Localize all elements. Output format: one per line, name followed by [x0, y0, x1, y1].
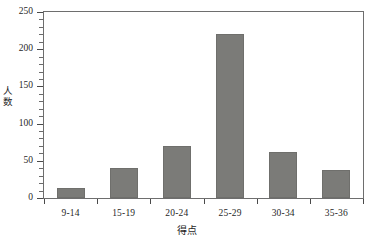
- x-axis-tick: [310, 199, 311, 204]
- bar-slot: [204, 12, 257, 198]
- y-axis-tick-label: 200: [1, 44, 33, 54]
- x-axis-title: 得点: [0, 225, 373, 236]
- y-axis-title-char-2: 数: [2, 97, 14, 108]
- x-axis-tick-label-20-24: 20-24: [147, 208, 207, 219]
- bar-slot: [257, 12, 310, 198]
- x-axis-tick: [204, 199, 205, 204]
- bar-9-14[interactable]: [57, 188, 85, 198]
- bar-slot: [150, 12, 203, 198]
- bar-slot: [310, 12, 363, 198]
- histogram-figure: 人 数 050100150200250 9-1415-1920-2425-293…: [0, 0, 373, 243]
- x-axis-tick-label-30-34: 30-34: [253, 208, 313, 219]
- bar-30-34[interactable]: [269, 152, 297, 198]
- bar-35-36[interactable]: [322, 170, 350, 198]
- x-axis-tick-label-9-14: 9-14: [41, 208, 101, 219]
- x-axis-tick-label-15-19: 15-19: [94, 208, 154, 219]
- bar-25-29[interactable]: [216, 34, 244, 198]
- y-axis-tick-label: 0: [1, 193, 33, 203]
- bar-slot: [97, 12, 150, 198]
- x-axis-tick: [44, 199, 45, 204]
- bar-slot: [44, 12, 97, 198]
- bars-layer: [44, 12, 363, 198]
- x-axis-tick: [97, 199, 98, 204]
- x-axis-tick-label-35-36: 35-36: [306, 208, 366, 219]
- x-axis-tick: [257, 199, 258, 204]
- bar-15-19[interactable]: [110, 168, 138, 198]
- x-axis-tick-label-25-29: 25-29: [200, 208, 260, 219]
- x-axis-tick: [363, 199, 364, 204]
- y-axis-tick-label: 100: [1, 119, 33, 129]
- bar-20-24[interactable]: [163, 146, 191, 198]
- y-axis-tick-label: 50: [1, 156, 33, 166]
- x-axis-tick: [150, 199, 151, 204]
- y-axis-tick-label: 250: [1, 7, 33, 17]
- y-axis-tick-label: 150: [1, 81, 33, 91]
